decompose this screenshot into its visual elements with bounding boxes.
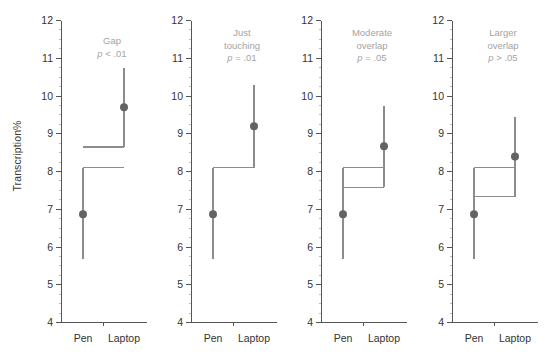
y-tick-label: 12 xyxy=(426,15,444,26)
y-tick-label: 5 xyxy=(426,279,444,290)
y-tick-label: 8 xyxy=(426,166,444,177)
y-tick-label: 11 xyxy=(426,53,444,64)
y-tick-label: 9 xyxy=(426,128,444,139)
annotation-label-line: Larger xyxy=(462,27,544,40)
annotation-label-line: overlap xyxy=(462,40,544,53)
figure-root: Transcription% 121110987654PenLaptopGapp… xyxy=(0,0,547,358)
annotation-p-value: p > .05 xyxy=(462,52,544,65)
x-tick-label-laptop: Laptop xyxy=(485,332,545,344)
y-tick-label: 6 xyxy=(426,242,444,253)
panel-annotation: Largeroverlapp > .05 xyxy=(462,27,544,65)
y-tick-label: 7 xyxy=(426,204,444,215)
pen-mean-marker xyxy=(470,210,478,218)
y-tick-label: 4 xyxy=(426,317,444,328)
panel-4: 121110987654PenLaptopLargeroverlapp > .0… xyxy=(0,0,547,358)
laptop-mean-marker xyxy=(511,152,519,160)
y-tick-label: 10 xyxy=(426,91,444,102)
